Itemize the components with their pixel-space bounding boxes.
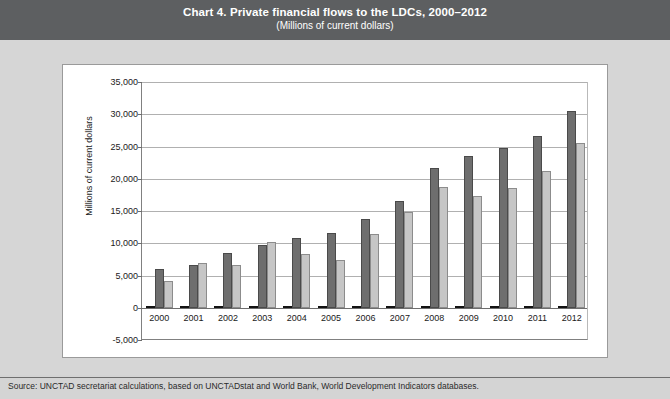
bar-group: 2000 bbox=[142, 82, 176, 308]
y-axis-tick-label: 25,000 bbox=[110, 142, 138, 152]
bar bbox=[336, 260, 345, 308]
bar bbox=[283, 306, 292, 308]
bar-group: 2003 bbox=[245, 82, 279, 308]
bar bbox=[421, 306, 430, 308]
bar-group: 2011 bbox=[520, 82, 554, 308]
bar bbox=[198, 263, 207, 308]
bar bbox=[258, 245, 267, 308]
bar bbox=[327, 233, 336, 308]
bar bbox=[542, 171, 551, 308]
y-axis-tick-label: 15,000 bbox=[110, 206, 138, 216]
bar bbox=[499, 148, 508, 307]
bar-group: 2012 bbox=[555, 82, 589, 308]
bar bbox=[249, 306, 258, 308]
bar bbox=[524, 306, 533, 308]
bar bbox=[439, 187, 448, 308]
chart-subtitle: (Millions of current dollars) bbox=[0, 19, 670, 32]
bar bbox=[464, 156, 473, 308]
bar bbox=[395, 201, 404, 307]
y-axis-title: Millions of current dollars bbox=[84, 81, 94, 251]
y-axis-tick-label: -5,000 bbox=[112, 335, 138, 345]
bar-group: 2004 bbox=[280, 82, 314, 308]
bar bbox=[352, 306, 361, 308]
bar bbox=[567, 111, 576, 308]
bar bbox=[180, 306, 189, 308]
bar bbox=[455, 306, 464, 308]
bar-series-container: 2000200120022003200420052006200720082009… bbox=[142, 82, 587, 339]
bar bbox=[576, 143, 585, 307]
bar-group: 2008 bbox=[417, 82, 451, 308]
bar bbox=[301, 254, 310, 308]
bar-group: 2002 bbox=[211, 82, 245, 308]
y-axis-tick-mark bbox=[138, 340, 142, 341]
bar bbox=[386, 306, 395, 308]
bar bbox=[361, 219, 370, 307]
y-axis-tick-label: 30,000 bbox=[110, 109, 138, 119]
bar bbox=[430, 168, 439, 308]
source-note: Source: UNCTAD secretariat calculations,… bbox=[8, 381, 662, 399]
bar bbox=[223, 253, 232, 308]
x-axis-tick-label: 2012 bbox=[549, 313, 595, 323]
bar bbox=[558, 306, 567, 308]
bar-group: 2005 bbox=[314, 82, 348, 308]
chart-title: Chart 4. Private financial flows to the … bbox=[0, 0, 670, 19]
bar bbox=[473, 196, 482, 308]
bar-group: 2010 bbox=[486, 82, 520, 308]
bar bbox=[292, 238, 301, 308]
y-axis-tick-label: 20,000 bbox=[110, 174, 138, 184]
y-axis-tick-label: 10,000 bbox=[110, 238, 138, 248]
plot-area: 35,00030,00025,00020,00015,00010,0005,00… bbox=[141, 82, 588, 340]
bar bbox=[533, 136, 542, 308]
bar bbox=[146, 306, 155, 308]
chart-panel: Millions of current dollars 35,00030,000… bbox=[62, 64, 608, 358]
footer-divider bbox=[0, 377, 670, 378]
bar-group: 2006 bbox=[348, 82, 382, 308]
bar bbox=[267, 242, 276, 308]
bar bbox=[155, 269, 164, 308]
bar-group: 2007 bbox=[383, 82, 417, 308]
bar bbox=[318, 306, 327, 308]
bar bbox=[232, 265, 241, 308]
bar bbox=[214, 306, 223, 308]
y-axis-tick-label: 5,000 bbox=[115, 271, 138, 281]
bar bbox=[508, 188, 517, 308]
bar bbox=[490, 306, 499, 308]
chart-body: Millions of current dollars 35,00030,000… bbox=[0, 40, 670, 375]
bar-group: 2009 bbox=[451, 82, 485, 308]
bar bbox=[404, 212, 413, 308]
chart-title-band: Chart 4. Private financial flows to the … bbox=[0, 0, 670, 40]
bar bbox=[164, 281, 173, 307]
bar-group: 2001 bbox=[176, 82, 210, 308]
bar bbox=[370, 234, 379, 308]
bar bbox=[189, 265, 198, 308]
y-axis-tick-label: 35,000 bbox=[110, 77, 138, 87]
